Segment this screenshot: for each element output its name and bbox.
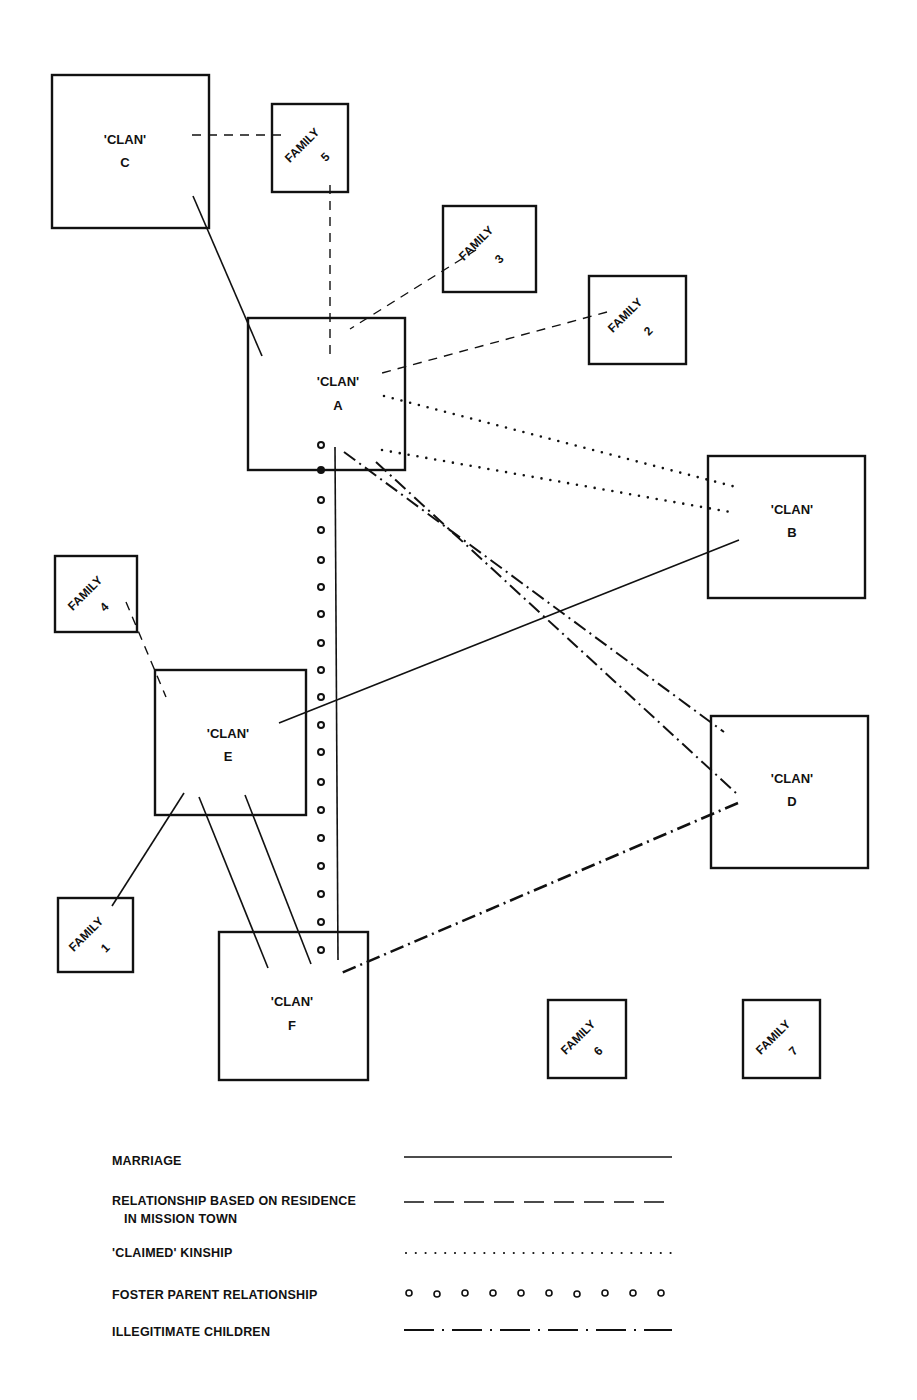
clan-a-box: 'CLAN' A [248, 318, 405, 470]
residence-line-family2-a [382, 312, 607, 373]
family-3-number: 3 [492, 252, 507, 267]
family-6-box: FAMILY 6 [548, 1000, 626, 1078]
marriage-line-e-f-1 [199, 797, 268, 968]
family-5-label: FAMILY [282, 125, 322, 165]
family-4-box: FAMILY 4 [55, 556, 137, 632]
claimed-line-a-b-2 [382, 450, 730, 512]
family-4-number: 4 [97, 600, 112, 615]
clan-a-label: 'CLAN' [317, 374, 359, 389]
family-1-box: FAMILY 1 [58, 898, 133, 972]
family-5-number: 5 [318, 150, 333, 165]
family-3-box: FAMILY 3 [443, 206, 536, 292]
clan-d-label: 'CLAN' [771, 771, 813, 786]
clan-b-letter: B [787, 525, 796, 540]
marriage-line-b-e [279, 540, 739, 723]
clan-b-label: 'CLAN' [771, 502, 813, 517]
kinship-diagram: 'CLAN' C 'CLAN' A 'CLAN' B 'CLAN' E 'CLA… [0, 0, 917, 1130]
legend-swatch-circles [406, 1290, 664, 1297]
illegitimate-line-a-d-1 [344, 452, 724, 732]
marriage-line-e-f-2 [245, 795, 311, 964]
family-5-box: FAMILY 5 [272, 104, 348, 192]
family-2-label: FAMILY [605, 295, 645, 335]
family-3-label: FAMILY [456, 223, 496, 263]
clan-f-letter: F [288, 1018, 296, 1033]
family-2-number: 2 [641, 324, 656, 339]
residence-line-family4-e [126, 602, 166, 697]
family-7-box: FAMILY 7 [743, 1000, 820, 1078]
family-2-box: FAMILY 2 [589, 276, 686, 364]
clan-c-label: 'CLAN' [104, 132, 146, 147]
clan-e-box: 'CLAN' E [155, 670, 306, 815]
clan-b-box: 'CLAN' B [708, 456, 865, 598]
family-6-number: 6 [591, 1044, 606, 1059]
marriage-line-e-family1 [112, 793, 184, 906]
clan-f-label: 'CLAN' [271, 994, 313, 1009]
foster-line-a-f [317, 442, 325, 953]
clan-e-letter: E [224, 749, 233, 764]
clan-a-letter: A [333, 398, 343, 413]
family-1-number: 1 [98, 941, 113, 956]
marriage-line-a-f [335, 447, 338, 960]
legend-swatches [112, 1140, 712, 1350]
illegitimate-line-d-f [339, 803, 738, 974]
claimed-line-a-b-1 [384, 396, 736, 487]
clan-f-box: 'CLAN' F [219, 932, 368, 1080]
family-7-number: 7 [786, 1044, 801, 1059]
clan-c-letter: C [120, 155, 130, 170]
illegitimate-line-a-d-2 [376, 462, 736, 793]
marriage-line-c-a [193, 196, 262, 356]
clan-e-label: 'CLAN' [207, 726, 249, 741]
clan-d-letter: D [787, 794, 796, 809]
clan-c-box: 'CLAN' C [52, 75, 209, 228]
